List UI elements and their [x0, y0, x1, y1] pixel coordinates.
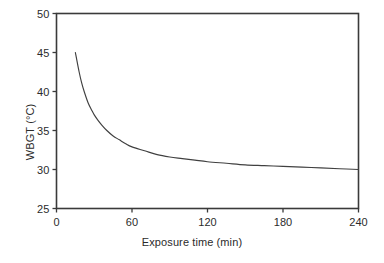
ytick-label: 30 — [0, 164, 50, 175]
data-line — [75, 53, 358, 170]
ytick-label: 40 — [0, 86, 50, 97]
chart-figure: 25 30 35 40 45 50 0 60 120 180 240 Expos… — [0, 0, 384, 263]
y-axis-title: WBGT (°C) — [24, 103, 36, 159]
plot-frame — [57, 14, 359, 209]
xtick-label: 120 — [198, 217, 217, 228]
ytick-label: 50 — [0, 8, 50, 19]
xtick-label: 0 — [53, 217, 59, 228]
ytick-label: 25 — [0, 203, 50, 214]
axis-ticks — [53, 14, 359, 213]
data-series-group — [75, 53, 358, 170]
x-axis-title: Exposure time (min) — [0, 236, 384, 248]
ytick-label: 45 — [0, 47, 50, 58]
xtick-label: 240 — [349, 217, 368, 228]
xtick-label: 60 — [126, 217, 138, 228]
xtick-label: 180 — [274, 217, 293, 228]
